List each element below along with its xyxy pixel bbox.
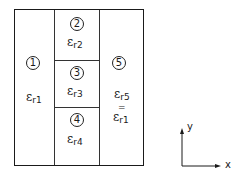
y-axis-arrow-icon xyxy=(180,128,184,134)
x-axis-label: x xyxy=(225,160,231,170)
coordinate-axes xyxy=(0,0,245,175)
y-axis-label: y xyxy=(187,122,193,132)
x-axis-arrow-icon xyxy=(215,164,221,168)
